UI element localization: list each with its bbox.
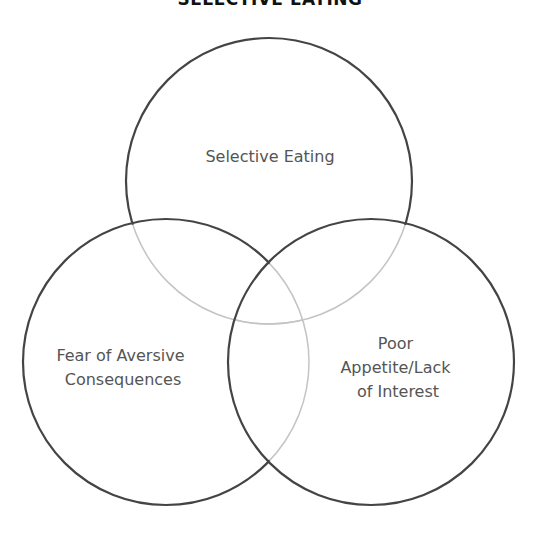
top-circle-hidden-arc-right	[126, 38, 412, 324]
top-circle-hidden-arc	[126, 38, 412, 324]
label-selective-eating: Selective Eating	[205, 147, 334, 166]
top-circle	[126, 38, 412, 324]
label-poor-appetite-lack-of-interest: Poor Appetite/Lack of Interest	[340, 334, 455, 401]
label-fear-of-aversive-consequences: Fear of Aversive Consequences	[56, 346, 189, 389]
venn-diagram: Selective Eating Fear of Aversive Conseq…	[0, 0, 540, 536]
